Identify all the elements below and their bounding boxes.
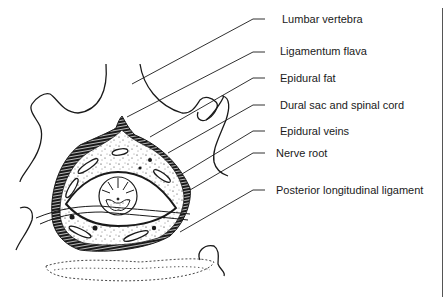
leader-epidural-veins	[182, 131, 265, 174]
label-posterior-longitudinal-ligament: Posterior longitudinal ligament	[276, 184, 423, 196]
leader-posterior-longitudinal-ligament	[180, 190, 265, 232]
vertebral-body-edge	[46, 259, 214, 281]
label-epidural-fat: Epidural fat	[280, 72, 336, 84]
label-epidural-veins: Epidural veins	[280, 125, 349, 137]
leader-lumbar-vertebra	[132, 19, 265, 84]
figure-border-rule	[442, 8, 443, 297]
spine-cross-section-diagram	[0, 0, 444, 297]
label-nerve-root: Nerve root	[276, 147, 327, 159]
leader-ligamentum-flava	[127, 52, 265, 117]
label-ligamentum-flava: Ligamentum flava	[280, 45, 367, 57]
leader-nerve-root	[190, 153, 265, 190]
label-lumbar-vertebra: Lumbar vertebra	[282, 13, 363, 25]
label-dural-sac: Dural sac and spinal cord	[280, 99, 404, 111]
leader-dural-sac	[168, 105, 265, 153]
